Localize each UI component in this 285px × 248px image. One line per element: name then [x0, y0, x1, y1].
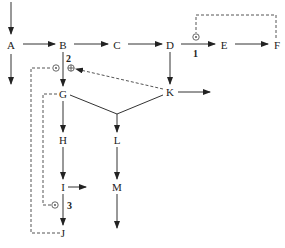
odot-symbol-ij — [52, 202, 58, 208]
odot-symbol-de — [193, 34, 199, 40]
odot-symbol-bg — [53, 65, 59, 71]
node-e: E — [221, 39, 228, 51]
node-l: L — [114, 134, 121, 146]
oplus-symbol-bg — [68, 65, 74, 71]
annotation-2: 2 — [66, 53, 71, 64]
node-h: H — [59, 134, 67, 146]
dashed-edge-k-oplus — [76, 69, 163, 89]
dashed-edge-g-odot — [43, 94, 57, 205]
annotation-1: 1 — [193, 48, 198, 59]
node-a: A — [7, 39, 15, 51]
node-m: M — [112, 181, 122, 193]
node-i: I — [61, 181, 65, 193]
node-f: F — [274, 39, 280, 51]
node-g: G — [59, 88, 67, 100]
node-d: D — [166, 39, 174, 51]
edge-g-join — [70, 95, 117, 114]
node-j: J — [61, 227, 66, 239]
node-c: C — [113, 39, 120, 51]
flow-diagram: A B C D E F G K H L I M J 1 2 3 — [0, 0, 285, 248]
node-k: K — [166, 86, 174, 98]
edge-k-join — [117, 95, 163, 114]
node-b: B — [59, 39, 66, 51]
dashed-edge-f-odot — [196, 15, 276, 38]
annotation-3: 3 — [67, 200, 72, 211]
